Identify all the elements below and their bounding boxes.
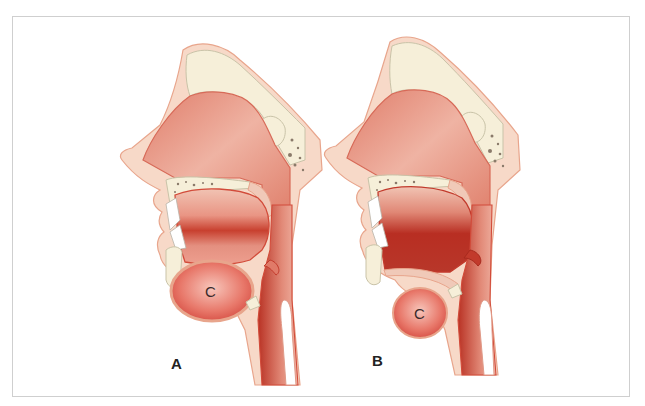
oral-cavity-a — [175, 189, 269, 265]
mandible-b — [366, 245, 382, 285]
panel-label-b: B — [372, 352, 383, 369]
structure-label-c-b: C — [414, 305, 425, 322]
oral-cavity-b — [378, 187, 474, 272]
panel-label-a: A — [171, 355, 182, 372]
panel-a — [120, 44, 322, 385]
anatomy-figure — [0, 0, 645, 406]
panel-b — [324, 37, 520, 375]
structure-label-c-a: C — [205, 283, 216, 300]
